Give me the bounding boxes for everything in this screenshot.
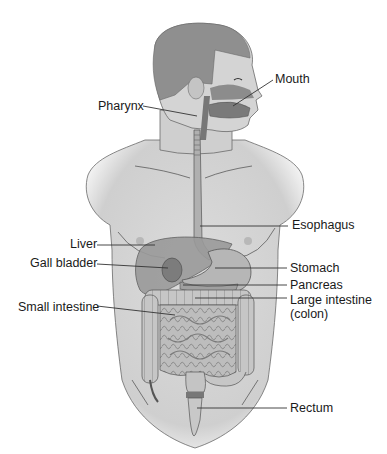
label-gall-bladder: Gall bladder	[30, 256, 97, 270]
small-intestine	[160, 305, 236, 377]
label-large-intestine-text: Large intestine	[290, 293, 387, 307]
label-esophagus: Esophagus	[292, 218, 355, 232]
label-pharynx: Pharynx	[98, 99, 144, 113]
label-small-intestine: Small intestine	[18, 300, 99, 314]
gall-bladder	[162, 258, 182, 282]
label-large-intestine-subtext: (colon)	[290, 307, 387, 321]
label-mouth: Mouth	[275, 72, 310, 86]
label-large-intestine: Large intestine (colon)	[290, 293, 387, 321]
label-liver: Liver	[70, 237, 97, 251]
label-pancreas: Pancreas	[290, 278, 343, 292]
label-rectum: Rectum	[290, 401, 333, 415]
digestive-system-diagram: Mouth Pharynx Esophagus Liver Gall bladd…	[0, 0, 387, 454]
label-stomach: Stomach	[290, 261, 339, 275]
